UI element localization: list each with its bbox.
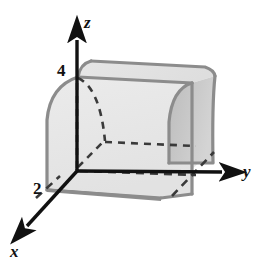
x-tick-label-2: 2 xyxy=(33,180,42,197)
y-axis xyxy=(77,171,222,172)
origin-marker xyxy=(75,168,78,171)
y-axis-label: y xyxy=(243,163,251,180)
figure-container: z y x 4 2 xyxy=(0,0,262,277)
coordinate-axes-diagram xyxy=(0,0,262,277)
x-axis-label: x xyxy=(10,243,19,260)
z-axis-label: z xyxy=(84,14,91,31)
z-tick-label-4: 4 xyxy=(57,62,66,79)
